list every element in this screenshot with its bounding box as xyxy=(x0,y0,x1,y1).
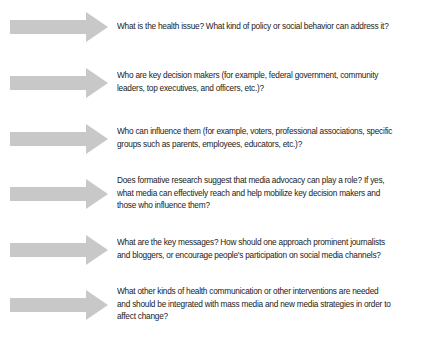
step-question: What other kinds of health communication… xyxy=(117,285,393,323)
step-question: Who are key decision makers (for example… xyxy=(117,69,393,94)
step-4: Does formative research suggest that med… xyxy=(0,172,424,216)
step-question: Does formative research suggest that med… xyxy=(117,174,393,212)
right-arrow-icon xyxy=(10,290,110,320)
right-arrow-icon xyxy=(10,68,110,98)
step-question: What is the health issue? What kind of p… xyxy=(117,20,393,33)
right-arrow-icon xyxy=(10,12,110,42)
step-6: What other kinds of health communication… xyxy=(0,283,424,327)
step-question: What are the key messages? How should on… xyxy=(117,236,393,261)
step-5: What are the key messages? How should on… xyxy=(0,228,424,272)
right-arrow-icon xyxy=(10,179,110,209)
step-2: Who are key decision makers (for example… xyxy=(0,61,424,105)
step-3: Who can influence them (for example, vot… xyxy=(0,117,424,161)
right-arrow-icon xyxy=(10,235,110,265)
step-question: Who can influence them (for example, vot… xyxy=(117,125,393,150)
right-arrow-icon xyxy=(10,124,110,154)
step-1: What is the health issue? What kind of p… xyxy=(0,5,424,49)
